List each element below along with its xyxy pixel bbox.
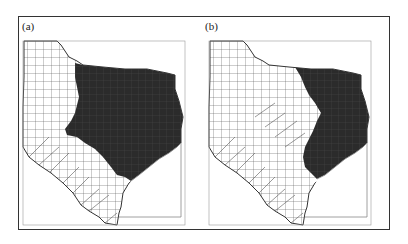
maps-svg — [19, 17, 391, 231]
map-a — [19, 17, 209, 231]
figure-frame: (a) (b) — [18, 16, 390, 230]
map-b — [205, 17, 391, 231]
